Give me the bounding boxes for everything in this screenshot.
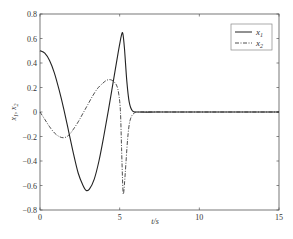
y-tick-label: 0 xyxy=(33,108,37,117)
x-axis-title: t/s xyxy=(151,217,159,226)
x-tick-label: 0 xyxy=(38,213,42,222)
y-tick-label: 0.8 xyxy=(27,10,37,19)
x-axis-label: t/s xyxy=(151,217,159,226)
y-tick-label: −0.2 xyxy=(22,133,37,142)
x-tick-label: 10 xyxy=(195,213,203,222)
y-tick-label: −0.4 xyxy=(22,157,37,166)
y-tick-label: −0.8 xyxy=(22,206,37,215)
x-tick-label: 15 xyxy=(275,213,283,222)
y-axis-label: x1, x2 xyxy=(9,103,19,121)
y-axis-title: x1, x2 xyxy=(9,103,19,121)
x-tick-label: 5 xyxy=(118,213,122,222)
y-tick-label: 0.6 xyxy=(27,35,37,44)
line-chart: 0.80.60.40.20−0.2−0.4−0.6−0.8 051015 t/s… xyxy=(0,0,293,239)
y-tick-label: 0.4 xyxy=(27,59,37,68)
legend-box xyxy=(231,24,272,50)
legend: x1 x2 xyxy=(231,24,272,50)
y-tick-label: −0.6 xyxy=(22,182,37,191)
y-tick-label: 0.2 xyxy=(27,84,37,93)
